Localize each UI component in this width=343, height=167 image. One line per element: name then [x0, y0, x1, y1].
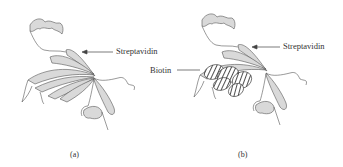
streptavidin-label: Streptavidin	[283, 41, 325, 51]
panel-caption: (b)	[238, 150, 247, 159]
panel-a: Streptavidin (a)	[0, 0, 171, 167]
biotin-label: Biotin	[150, 65, 171, 75]
streptavidin-biotin-ribbon-diagram	[172, 0, 343, 167]
streptavidin-ribbon-diagram	[0, 0, 171, 167]
panel-caption: (a)	[70, 150, 79, 159]
panel-b: Streptavidin Biotin (b)	[172, 0, 343, 167]
streptavidin-label: Streptavidin	[116, 46, 158, 56]
